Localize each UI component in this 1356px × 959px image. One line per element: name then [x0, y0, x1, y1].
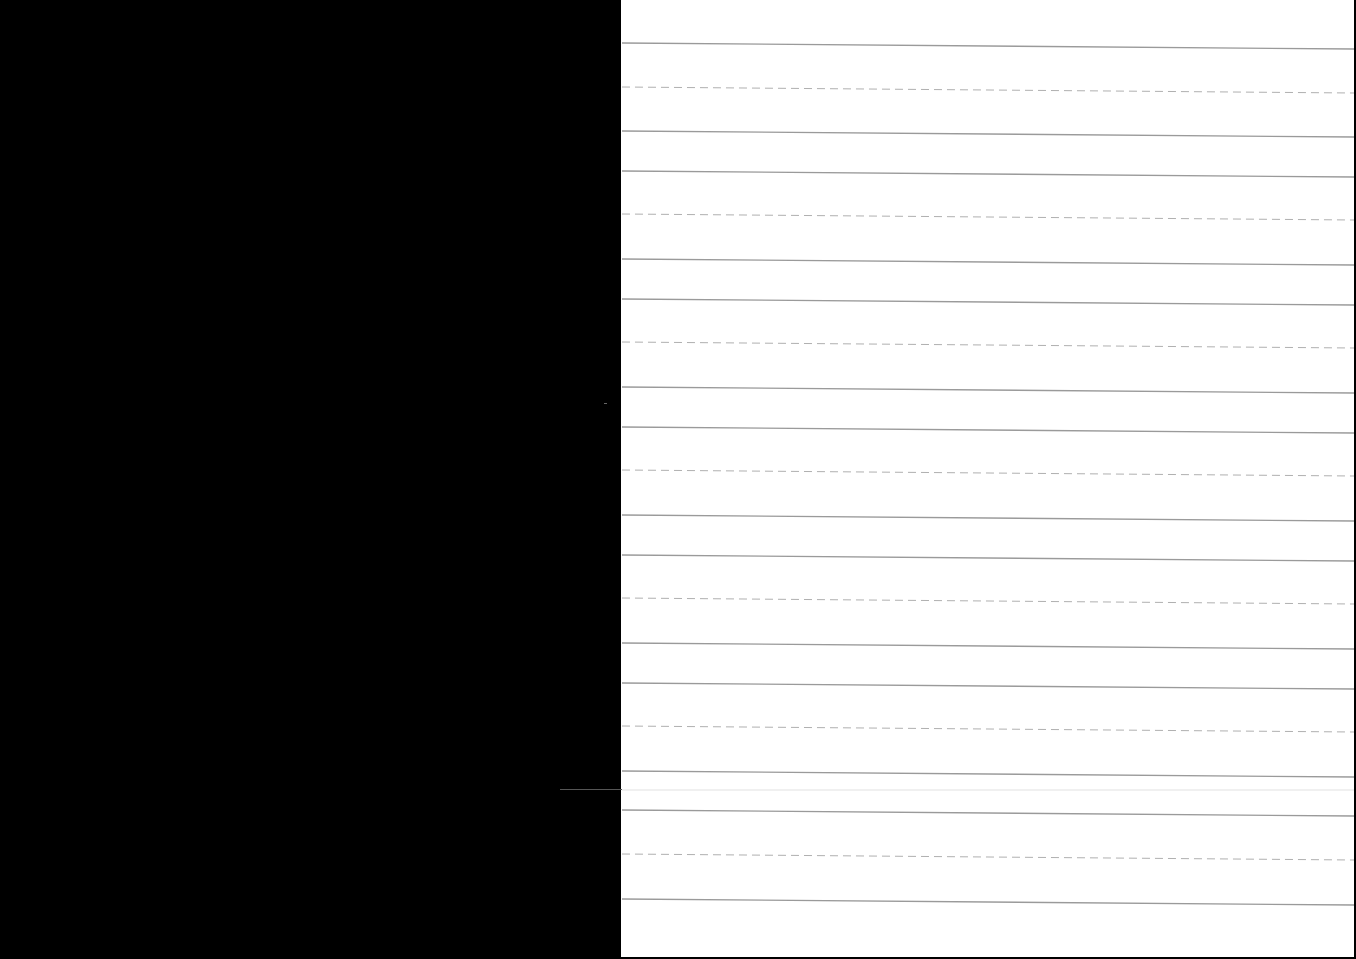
baseline	[622, 259, 1354, 265]
top-line	[622, 171, 1354, 177]
scan-artifact-line	[560, 789, 622, 790]
baseline	[622, 899, 1354, 905]
scanned-document	[0, 0, 1356, 959]
dashed-midline	[622, 726, 1354, 732]
dashed-midline	[622, 342, 1354, 348]
dashed-midline	[622, 87, 1354, 93]
dashed-midline	[622, 470, 1354, 476]
top-line	[622, 299, 1354, 305]
dashed-midline	[622, 214, 1354, 220]
dashed-midline	[622, 598, 1354, 604]
dashed-midline	[622, 854, 1354, 860]
top-line	[622, 810, 1354, 816]
ruled-lines	[0, 0, 1356, 959]
scan-ghost-line	[622, 789, 1354, 791]
top-line	[622, 427, 1354, 433]
top-line	[622, 555, 1354, 561]
baseline	[622, 771, 1354, 777]
baseline	[622, 643, 1354, 649]
top-line	[622, 683, 1354, 689]
scan-speck	[604, 403, 607, 404]
baseline	[622, 387, 1354, 393]
baseline	[622, 515, 1354, 521]
baseline	[622, 131, 1354, 137]
top-line	[622, 43, 1354, 49]
